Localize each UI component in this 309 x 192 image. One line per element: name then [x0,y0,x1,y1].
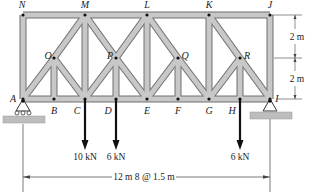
truss-diagram: 10 kN6 kN6 kN 12 m 8 @ 1.5 m2 m2 m ABCDE… [0,0,309,192]
member-GR [209,58,240,99]
dim-vert-arrow-2 [294,58,297,62]
ground-right [250,112,292,119]
joint-label-L: L [143,0,150,10]
pin-G [207,97,210,100]
pin-F [176,97,179,100]
pin-P [114,56,117,59]
joint-label-B: B [51,105,57,116]
pin-N [21,13,24,16]
joint-label-C: C [74,105,81,116]
member-CP [85,58,116,99]
member-RK [209,15,240,58]
member-RI [240,58,270,99]
joint-label-G: G [205,105,212,116]
joint-label-Q: Q [181,50,189,61]
support-I-pin [268,99,272,103]
roller-0 [15,111,19,115]
load-label-H: 6 kN [231,152,250,162]
member-PE [116,58,147,99]
pin-L [145,13,148,16]
dim-vert-arrow-0 [294,15,297,19]
dim-vert-arrow-1 [294,54,297,58]
dim-height-lower: 2 m [290,74,305,84]
joint-label-F: F [174,105,182,116]
pin-K [207,13,210,16]
pin-B [52,97,55,100]
member-EQ [147,58,178,99]
truss-members [23,15,270,99]
roller-1 [21,111,25,115]
joint-label-D: D [103,105,112,116]
truss-svg: 10 kN6 kN6 kN 12 m 8 @ 1.5 m2 m2 m ABCDE… [0,0,309,192]
pin-E [145,97,148,100]
dim-arrow-right [263,175,270,179]
member-OC [54,58,85,99]
load-arrow-head-H [237,140,244,150]
pin-Q [176,56,179,59]
joint-label-H: H [227,105,236,116]
load-arrow-head-C [82,140,89,150]
load-label-D: 6 kN [107,152,126,162]
member-PL [116,15,147,58]
dim-span-label: 12 m 8 @ 1.5 m [113,172,175,182]
member-QL [147,15,178,58]
joint-label-O: O [44,50,51,61]
joint-label-P: P [106,50,113,61]
ground-left [3,116,45,123]
dim-arrow-left [23,175,30,179]
joint-label-K: K [205,0,214,10]
member-QG [178,58,209,99]
load-label-C: 10 kN [73,152,97,162]
pin-M [83,13,86,16]
joint-label-J: J [268,0,273,10]
member-OM [54,15,85,58]
joint-label-I: I [274,93,279,104]
joint-label-E: E [143,105,150,116]
joint-label-A: A [9,93,17,104]
loads: 10 kN6 kN6 kN [73,99,249,162]
support-A-pin [21,99,25,103]
pin-R [238,56,241,59]
pin-O [52,56,55,59]
joint-label-N: N [18,0,27,10]
joint-label-M: M [80,0,90,10]
member-AO [23,58,54,99]
joint-label-R: R [243,50,250,61]
pin-J [268,13,271,16]
load-arrow-head-D [113,140,120,150]
dim-height-upper: 2 m [290,32,305,42]
roller-2 [27,111,31,115]
dim-vert-arrow-3 [294,95,297,99]
